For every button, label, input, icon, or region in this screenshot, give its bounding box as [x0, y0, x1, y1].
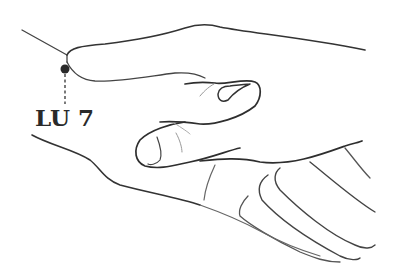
index-finger-outline: [160, 81, 260, 124]
support-palm-edge: [200, 205, 320, 256]
support-finger-1: [345, 148, 370, 178]
middle-finger-outline: [136, 122, 240, 167]
index-knuckle-line: [200, 84, 214, 96]
acupoint-marker: [61, 65, 70, 74]
middle-knuckle-line: [176, 133, 182, 152]
acupoint-label: LU 7: [35, 106, 94, 129]
forearm-line: [22, 30, 67, 55]
support-finger-3: [275, 168, 375, 248]
support-finger-2: [310, 162, 375, 212]
support-finger-5: [239, 196, 340, 262]
palm-crease: [174, 123, 190, 134]
support-hand-side: [204, 165, 215, 200]
hand-line-art: [0, 0, 401, 279]
wrist-lower-edge: [32, 135, 200, 205]
index-fingernail: [218, 84, 250, 101]
middle-fingernail: [148, 137, 161, 165]
hand-illustration: LU 7: [0, 0, 401, 279]
thumb-top-edge: [67, 25, 365, 56]
thumb-underside: [67, 62, 205, 81]
